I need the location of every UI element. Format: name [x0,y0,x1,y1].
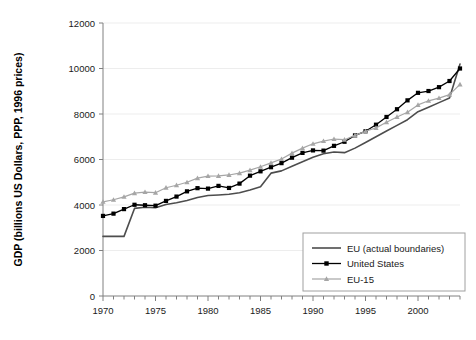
series-marker [279,161,283,165]
series-marker [416,91,420,95]
series-marker [164,199,168,203]
y-axis-title-text: GDP (billions US Dollars, PPP, 1996 pric… [12,53,24,267]
series-marker [458,66,462,70]
legend-label: EU (actual boundaries) [347,243,444,254]
series-marker [457,82,462,87]
series-marker [143,203,147,207]
data-series-layer [100,64,462,236]
series-marker [111,212,115,216]
gridlines [103,23,460,251]
legend-label: United States [347,258,404,269]
x-tick-labels: 1970197519801985199019952000 [92,305,428,316]
y-tick-label: 6000 [74,154,95,165]
chart-canvas: 020004000600080001000012000 197019751980… [0,0,476,340]
y-axis-title: GDP (billions US Dollars, PPP, 1996 pric… [12,53,24,267]
series-line [103,64,460,236]
chart-legend: EU (actual boundaries)United StatesEU-15 [303,233,465,291]
y-tick-label: 8000 [74,109,95,120]
x-tick-label: 1985 [250,305,271,316]
series-marker [426,89,430,93]
y-tick-label: 0 [90,291,95,302]
series-marker [321,149,325,153]
series-marker [311,148,315,152]
gdp-line-chart: 020004000600080001000012000 197019751980… [0,0,476,340]
series-marker [447,79,451,83]
y-tick-labels: 020004000600080001000012000 [69,18,95,302]
series-marker [122,207,126,211]
series-marker [248,174,252,178]
series-marker [101,214,105,218]
series-marker [258,169,262,173]
y-tick-label: 4000 [74,200,95,211]
series-marker [279,156,284,161]
series-marker [395,107,399,111]
x-tick-label: 1990 [302,305,323,316]
series-eu-actual-boundaries [103,64,460,236]
y-tick-marks [99,23,103,296]
series-marker [174,194,178,198]
legend-swatch-marker [324,261,328,265]
y-tick-label: 12000 [69,18,95,29]
series-marker [185,189,189,193]
series-marker [437,85,441,89]
x-tick-label: 1975 [145,305,166,316]
series-marker [195,186,199,190]
legend-label: EU-15 [347,274,374,285]
series-marker [132,203,136,207]
series-united-states [101,66,462,218]
series-marker [153,204,157,208]
x-tick-label: 1970 [92,305,113,316]
y-tick-label: 10000 [69,63,95,74]
series-marker [384,115,388,119]
series-marker [237,182,241,186]
x-tick-label: 2000 [407,305,428,316]
x-tick-label: 1995 [355,305,376,316]
series-marker [206,187,210,191]
x-tick-label: 1980 [197,305,218,316]
series-marker [290,156,294,160]
x-tick-marks [103,296,460,301]
y-tick-label: 2000 [74,245,95,256]
series-marker [269,165,273,169]
series-marker [300,151,304,155]
series-marker [332,144,336,148]
series-marker [405,98,409,102]
series-marker [216,184,220,188]
series-marker [227,186,231,190]
